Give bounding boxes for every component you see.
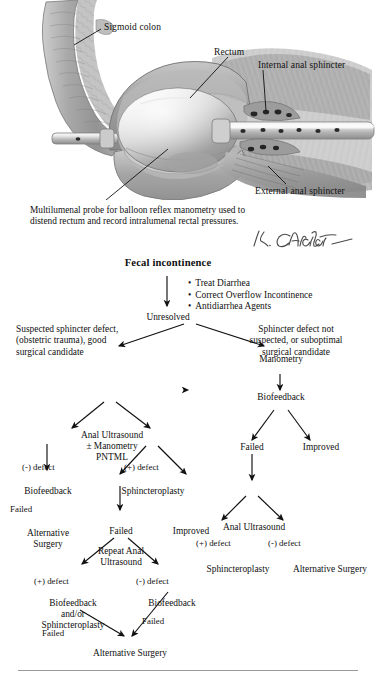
label-sigmoid-colon: Sigmoid colon	[104, 22, 161, 32]
node-left-criteria: Suspected sphincter defect, (obstetric t…	[16, 324, 144, 358]
node-alternative-surgery-right: Alternative Surgery	[284, 564, 375, 575]
node-biofeedback-bottom: Biofeedback	[134, 598, 210, 609]
fecal-incontinence-algorithm: Fecal incontinence Treat Diarrhea Correc…	[0, 258, 375, 668]
edge-failed-biofeedback-left: Failed	[10, 504, 32, 514]
node-biofeedback-right: Biofeedback	[244, 392, 318, 403]
node-anal-ultrasound-pntml: Anal Ultrasound ± Manometry PNTML	[56, 430, 168, 462]
node-repeat-anal-ultrasound: Repeat Anal Ultrasound	[78, 546, 164, 568]
node-improved-right: Improved	[290, 442, 352, 453]
node-biofeedback-left: Biofeedback	[12, 486, 84, 497]
footer-divider	[18, 670, 358, 671]
edge-pos-defect-2: (+) defect	[196, 538, 231, 548]
edge-pos-defect-3: (+) defect	[34, 576, 69, 586]
edge-neg-defect-3: (-) defect	[136, 576, 169, 586]
measure-item: Correct Overflow Incontinence	[188, 290, 312, 302]
label-internal-anal-sphincter: Internal anal sphincter	[258, 60, 345, 70]
illustration-caption: Multilumenal probe for balloon reflex ma…	[30, 205, 270, 227]
node-anal-ultrasound-right: Anal Ultrasound	[206, 522, 302, 533]
node-manometry: Manometry	[244, 354, 318, 365]
node-sphincteroplasty-left: Sphincteroplasty	[104, 486, 202, 497]
node-failed-right: Failed	[226, 442, 278, 453]
artist-signature	[248, 228, 358, 252]
node-unresolved: Unresolved	[132, 312, 204, 323]
measure-item: Antidiarrhea Agents	[188, 301, 312, 313]
node-failed-mid: Failed	[96, 526, 146, 537]
node-sphincteroplasty-right: Sphincteroplasty	[190, 564, 286, 575]
edge-failed-bottom-right: Failed	[142, 616, 164, 626]
label-external-anal-sphincter: External anal sphincter	[255, 186, 345, 196]
initial-measures-list: Treat Diarrhea Correct Overflow Incontin…	[188, 278, 312, 313]
edge-neg-defect-2: (-) defect	[268, 538, 301, 548]
edge-failed-bottom-left: Failed	[42, 628, 64, 638]
label-rectum: Rectum	[214, 47, 244, 57]
flow-title: Fecal incontinence	[118, 258, 218, 269]
measure-item: Treat Diarrhea	[188, 278, 312, 290]
edge-neg-defect-1: (-) defect	[22, 462, 55, 472]
node-alternative-surgery-left: Alternative Surgery	[8, 528, 88, 550]
anatomy-illustration: Sigmoid colon Rectum Internal anal sphin…	[0, 0, 375, 230]
node-alternative-surgery-bottom: Alternative Surgery	[60, 648, 200, 659]
edge-pos-defect-1: (+) defect	[124, 462, 159, 472]
node-biofeedback-and-or-sphincteroplasty: Biofeedback and/or Sphincteroplasty	[18, 598, 128, 630]
